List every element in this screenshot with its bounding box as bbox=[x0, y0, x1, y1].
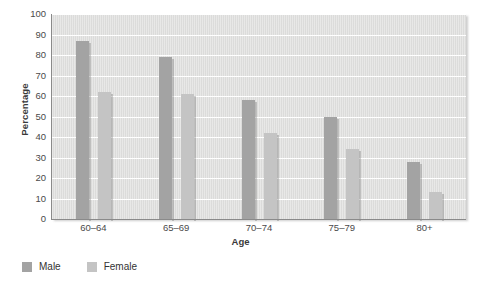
x-axis-line bbox=[52, 219, 466, 220]
x-tick-label: 75–79 bbox=[312, 222, 372, 233]
y-tick-label: 60 bbox=[16, 91, 46, 101]
legend-item-female[interactable]: Female bbox=[87, 261, 137, 272]
y-tick-label: 100 bbox=[16, 9, 46, 19]
legend: MaleFemale bbox=[22, 261, 163, 272]
x-axis-title: Age bbox=[0, 236, 481, 247]
y-tick-label: 30 bbox=[16, 153, 46, 163]
y-axis-ticks: 0102030405060708090100 bbox=[0, 14, 466, 219]
legend-label: Male bbox=[39, 261, 61, 272]
y-tick-label: 50 bbox=[16, 112, 46, 122]
x-tick-label: 70–74 bbox=[229, 222, 289, 233]
y-tick-label: 20 bbox=[16, 173, 46, 183]
legend-label: Female bbox=[104, 261, 137, 272]
legend-swatch-icon bbox=[22, 262, 32, 272]
x-tick-label: 80+ bbox=[395, 222, 455, 233]
x-tick-label: 60–64 bbox=[63, 222, 123, 233]
y-tick-label: 40 bbox=[16, 132, 46, 142]
legend-swatch-icon bbox=[87, 262, 97, 272]
y-tick-label: 80 bbox=[16, 50, 46, 60]
legend-item-male[interactable]: Male bbox=[22, 261, 61, 272]
y-tick-label: 10 bbox=[16, 194, 46, 204]
y-tick-label: 0 bbox=[16, 214, 46, 224]
y-tick-label: 90 bbox=[16, 30, 46, 40]
y-axis-line bbox=[51, 14, 52, 220]
y-tick-label: 70 bbox=[16, 71, 46, 81]
x-tick-label: 65–69 bbox=[146, 222, 206, 233]
bar-chart-figure: Percentage 0102030405060708090100 60–646… bbox=[0, 0, 481, 288]
